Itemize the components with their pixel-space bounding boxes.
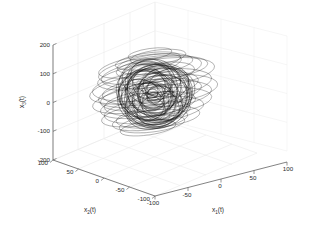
tick-label-x2-0: 100: [38, 159, 49, 166]
tick-labels-x3: 200 100 0 -100 -200: [38, 41, 51, 163]
phase-portrait-3d-plot: 200 100 0 -100 -200 100 50 0 -50 -100: [0, 0, 319, 232]
tick-label-x3-2: 0: [47, 99, 51, 106]
axis-label-x2: x2(t): [84, 206, 96, 215]
ticks-x3: [53, 44, 57, 161]
tick-label-x3-1: 100: [40, 70, 51, 77]
ticks-x1: [155, 162, 287, 200]
axis-label-x2-tail: (t): [90, 206, 96, 214]
tick-label-x1-1: -50: [183, 191, 193, 198]
tick-label-x2-2: 0: [96, 177, 100, 184]
tick-label-x1-3: 50: [250, 174, 257, 181]
tick-label-x3-3: -100: [38, 127, 51, 134]
tick-label-x2-1: 50: [67, 168, 74, 175]
grid-left-wall: [53, 2, 155, 160]
svg-text:x2(t): x2(t): [84, 206, 96, 215]
tick-label-x1-0: -100: [147, 199, 160, 206]
axis-label-x1-tail: (t): [218, 206, 224, 214]
tick-labels-x1: -100 -50 0 50 100: [147, 165, 294, 206]
tick-label-x2-3: -50: [116, 186, 126, 193]
matlab-figure-canvas: 200 100 0 -100 -200 100 50 0 -50 -100: [0, 0, 319, 232]
svg-text:x3(t): x3(t): [18, 96, 27, 108]
ticks-x2: [50, 160, 155, 199]
axis-label-x3: x3(t): [18, 96, 27, 108]
axis-label-x1: x1(t): [212, 206, 224, 215]
tick-label-x3-0: 200: [40, 41, 51, 48]
tick-label-x1-2: 0: [218, 182, 222, 189]
tick-label-x1-4: 100: [283, 165, 294, 172]
svg-text:x1(t): x1(t): [212, 206, 224, 215]
axis-label-x3-tail: (t): [18, 96, 26, 102]
